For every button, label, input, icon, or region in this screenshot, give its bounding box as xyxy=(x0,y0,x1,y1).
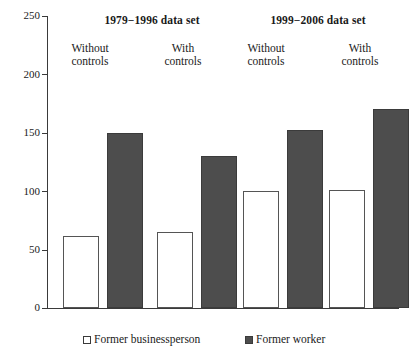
legend-label-former-worker: Former worker xyxy=(256,333,325,346)
bar-worker-group1-with-controls xyxy=(201,156,237,308)
y-tick-label-250: 250 xyxy=(2,10,40,21)
bar-businessperson-group1-without-controls xyxy=(63,236,99,308)
legend-swatch-light-icon xyxy=(83,336,91,344)
bar-businessperson-group1-with-controls xyxy=(157,232,193,308)
x-axis-line xyxy=(47,308,399,309)
legend-item-former-worker: Former worker xyxy=(245,333,325,346)
plot-area xyxy=(47,16,399,308)
bar-worker-group2-with-controls xyxy=(373,109,409,308)
y-tick-50: 50 xyxy=(0,244,40,255)
y-tick-label-200: 200 xyxy=(2,69,40,80)
bar-businessperson-group2-without-controls xyxy=(243,191,279,308)
y-tick-250: 250 xyxy=(0,10,40,21)
y-tick-0: 0 xyxy=(0,302,40,313)
y-tick-label-50: 50 xyxy=(2,244,40,255)
y-tick-100: 100 xyxy=(0,186,40,197)
chart-legend: Former businessperson Former worker xyxy=(47,333,399,351)
bar-businessperson-group2-with-controls xyxy=(329,190,365,308)
bar-worker-group2-without-controls xyxy=(287,130,323,308)
legend-item-former-businessperson: Former businessperson xyxy=(83,333,200,346)
y-tick-200: 200 xyxy=(0,69,40,80)
bar-chart: 250 200 150 100 50 0 1979−1996 data set … xyxy=(0,0,410,360)
y-tick-label-0: 0 xyxy=(2,302,40,313)
y-tick-label-100: 100 xyxy=(2,186,40,197)
legend-label-former-businessperson: Former businessperson xyxy=(94,333,200,346)
y-tick-label-150: 150 xyxy=(2,127,40,138)
bar-worker-group1-without-controls xyxy=(107,133,143,308)
y-tick-150: 150 xyxy=(0,127,40,138)
legend-swatch-dark-icon xyxy=(245,336,253,344)
